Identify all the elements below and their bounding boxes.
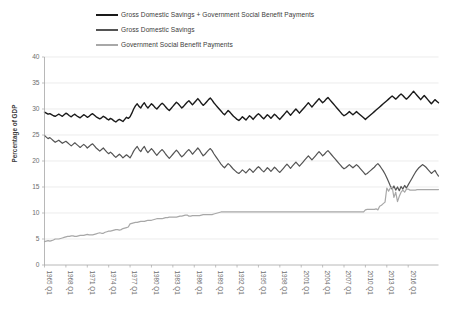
y-tick-label: 40	[32, 53, 40, 60]
series-line-1	[45, 136, 439, 191]
y-tick-label: 35	[32, 79, 40, 86]
x-tick-label: 1992 Q1	[237, 271, 245, 296]
data-series	[45, 91, 439, 241]
x-tick-label: 2010 Q1	[366, 271, 374, 296]
x-tick-label: 2013 Q1	[387, 271, 395, 296]
y-tick-label: 5	[36, 235, 40, 242]
x-tick-label: 1965 Q1	[45, 271, 53, 296]
x-tick-label: 2004 Q1	[323, 271, 331, 296]
x-tick-label: 1983 Q1	[173, 271, 181, 296]
x-tick-label: 1998 Q1	[280, 271, 288, 296]
y-tick-label: 20	[32, 157, 40, 164]
series-line-0	[45, 91, 439, 122]
y-axis-ticks: 0510152025303540	[32, 53, 44, 268]
x-tick-label: 2016 Q1	[409, 271, 417, 296]
x-tick-label: 1971 Q1	[88, 271, 96, 296]
y-tick-label: 10	[32, 209, 40, 216]
x-tick-label: 1989 Q1	[216, 271, 224, 296]
x-tick-label: 1974 Q1	[109, 271, 117, 296]
x-tick-label: 2001 Q1	[302, 271, 310, 296]
y-tick-label: 30	[32, 105, 40, 112]
x-tick-label: 1968 Q1	[66, 271, 74, 296]
x-tick-label: 1995 Q1	[259, 271, 267, 296]
x-axis-ticks: 1965 Q11968 Q11971 Q11974 Q11977 Q11980 …	[45, 265, 417, 295]
y-tick-label: 25	[32, 131, 40, 138]
x-tick-label: 2007 Q1	[344, 271, 352, 296]
plot-area: 0510152025303540 1965 Q11968 Q11971 Q119…	[0, 0, 451, 315]
x-tick-label: 1986 Q1	[195, 271, 203, 296]
x-tick-label: 1977 Q1	[130, 271, 138, 296]
series-line-2	[45, 187, 439, 242]
x-tick-label: 1980 Q1	[152, 271, 160, 296]
chart-container: Gross Domestic Savings + Government Soci…	[0, 0, 451, 315]
y-tick-label: 15	[32, 183, 40, 190]
y-tick-label: 0	[36, 261, 40, 268]
